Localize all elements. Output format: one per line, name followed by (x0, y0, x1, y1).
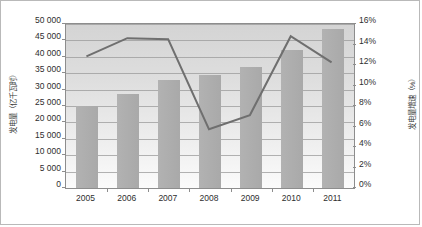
y-axis-left-tickmark (62, 39, 65, 40)
y-axis-right-tick: 6% (359, 118, 371, 128)
y-axis-right-tickmark (353, 167, 356, 168)
y-axis-right-tickmark (353, 64, 356, 65)
y-axis-right-tick: 0% (359, 179, 371, 189)
y-axis-right-tickmark (353, 105, 356, 106)
x-axis-labels: 2005200620072008200920102011 (65, 193, 355, 209)
x-axis-tickmark (272, 189, 273, 192)
y-axis-right-tick: 12% (359, 56, 376, 66)
x-axis-label: 2011 (312, 193, 352, 203)
y-axis-right-tickmark (353, 146, 356, 147)
x-axis-label: 2005 (66, 193, 106, 203)
y-axis-left-tick: 5 000 (40, 163, 61, 173)
y-axis-right-tick: 14% (359, 36, 376, 46)
growth-rate-line (86, 36, 331, 129)
y-axis-left-tick: 20 000 (35, 113, 61, 123)
y-axis-left-tickmark (62, 72, 65, 73)
y-axis-left-tick: 40 000 (35, 48, 61, 58)
x-axis-label: 2007 (148, 193, 188, 203)
y-axis-right-tick: 8% (359, 97, 371, 107)
x-axis-tickmark (148, 189, 149, 192)
y-axis-right-tickmark (353, 187, 356, 188)
x-axis-label: 2010 (271, 193, 311, 203)
y-axis-left-tickmark (62, 154, 65, 155)
y-axis-left-tick: 10 000 (35, 146, 61, 156)
y-axis-left-tick: 45 000 (35, 31, 61, 41)
y-axis-left-tick: 0 (56, 179, 61, 189)
x-axis-label: 2008 (189, 193, 229, 203)
chart-container: 发电量（亿千瓦时） 发电量增速（%） 50 00045 00040 00035 … (0, 0, 420, 225)
y-axis-left-tick: 30 000 (35, 81, 61, 91)
y-axis-left-tickmark (62, 121, 65, 122)
x-axis-label: 2009 (230, 193, 270, 203)
y-axis-right-tickmark (353, 85, 356, 86)
y-axis-right-ticks: 16%14%12%10%8%6%4%2%0% (359, 19, 391, 189)
y-axis-right-tick: 10% (359, 77, 376, 87)
y-axis-right-tickmark (353, 23, 356, 24)
y-axis-left-tickmark (62, 187, 65, 188)
y-axis-right-tickmark (353, 126, 356, 127)
y-axis-right-tick: 16% (359, 15, 376, 25)
y-axis-right-tick: 4% (359, 138, 371, 148)
y-axis-left-tickmark (62, 138, 65, 139)
x-axis-tickmark (107, 189, 108, 192)
y-axis-right-tick: 2% (359, 159, 371, 169)
x-axis-tickmark (189, 189, 190, 192)
y-axis-left-tick: 15 000 (35, 130, 61, 140)
line-series (66, 24, 354, 188)
x-axis-label: 2006 (107, 193, 147, 203)
y-axis-right-tickmark (353, 44, 356, 45)
y-axis-right-title: 发电量增速（%） (406, 51, 417, 155)
y-axis-left-tick: 25 000 (35, 97, 61, 107)
y-axis-left-tickmark (62, 171, 65, 172)
y-axis-left-tickmark (62, 56, 65, 57)
x-axis-tickmark (313, 189, 314, 192)
y-axis-left-tickmark (62, 89, 65, 90)
y-axis-left-tickmark (62, 23, 65, 24)
plot-area (65, 23, 355, 189)
x-axis-tickmark (231, 189, 232, 192)
y-axis-left-tick: 50 000 (35, 15, 61, 25)
y-axis-left-tick: 35 000 (35, 64, 61, 74)
y-axis-left-tickmark (62, 105, 65, 106)
y-axis-left-ticks: 50 00045 00040 00035 00030 00025 00020 0… (15, 19, 61, 189)
